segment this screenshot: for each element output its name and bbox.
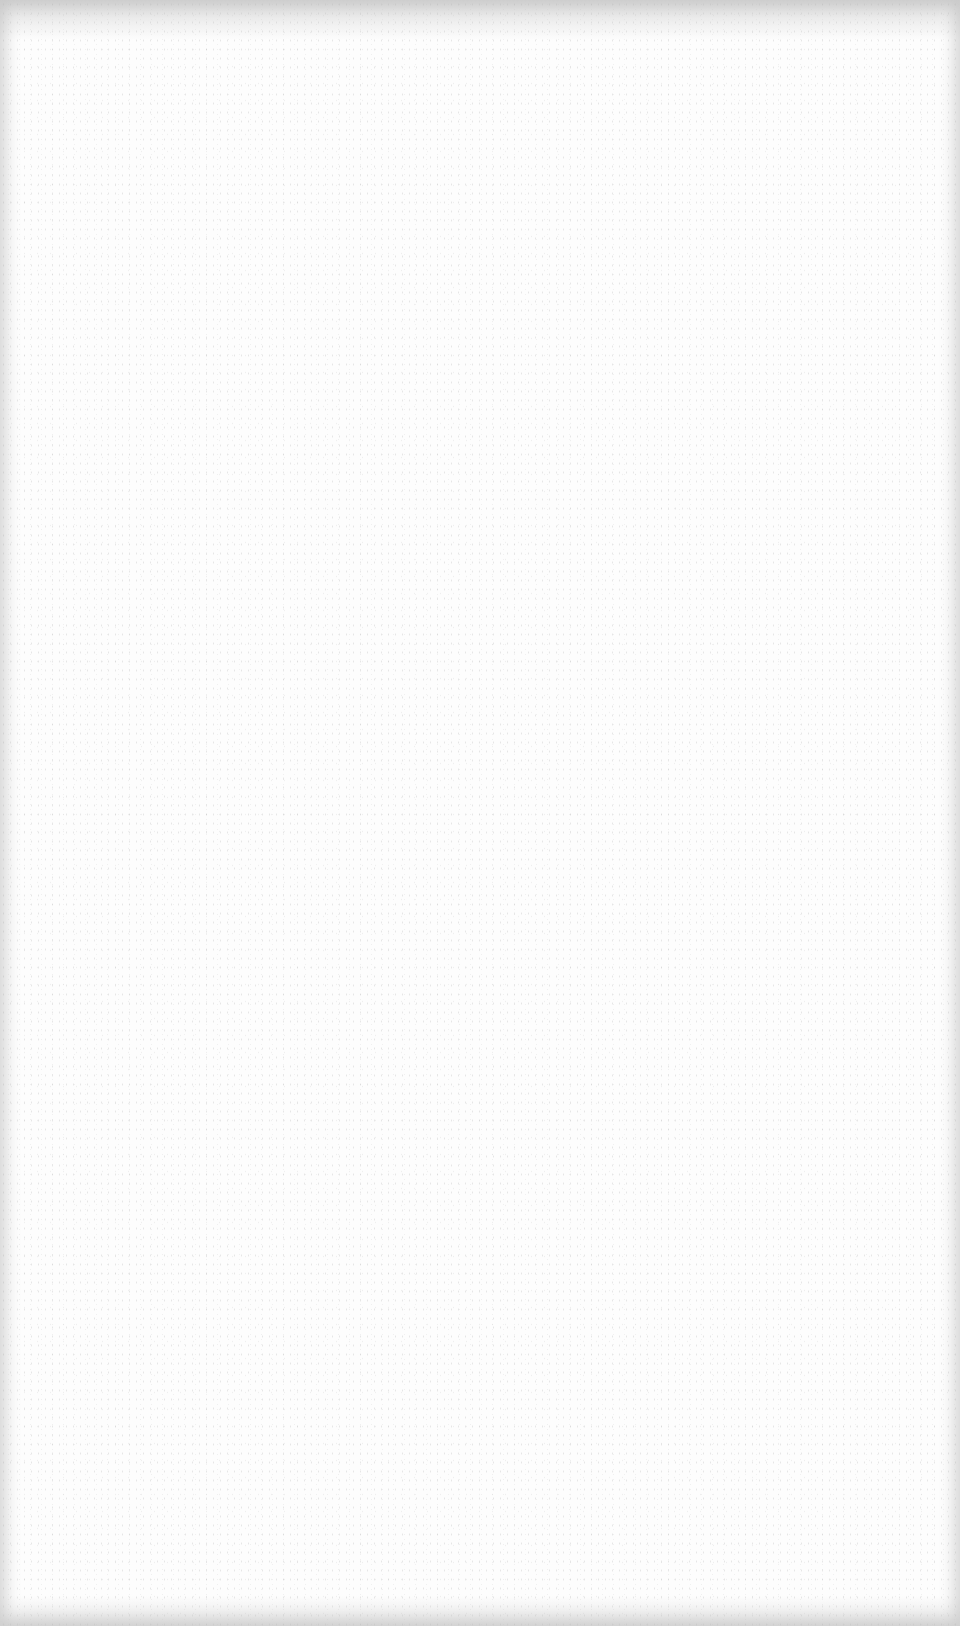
scan-top-edge-shadow [0, 0, 960, 40]
scan-bottom-edge-shadow [0, 1596, 960, 1626]
paper-speckle-texture [0, 0, 960, 1626]
blank-scanned-page [0, 0, 960, 1626]
